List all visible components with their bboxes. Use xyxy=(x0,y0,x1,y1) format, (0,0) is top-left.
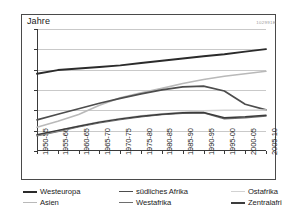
legend-item[interactable]: Zentralafrika xyxy=(231,198,282,207)
x-tick-mark xyxy=(141,151,142,154)
legend-item[interactable]: Westafrika xyxy=(119,198,231,207)
legend-label: Zentralafrika xyxy=(248,198,282,207)
chart-legend: Westeuropasüdliches AfrikaOstafrikaAsien… xyxy=(23,186,275,208)
legend-label: Ostafrika xyxy=(248,187,278,196)
x-tick-mark xyxy=(37,151,38,154)
x-tick-mark xyxy=(204,151,205,154)
x-tick-mark xyxy=(58,151,59,154)
series-lines xyxy=(37,29,266,151)
y-axis-unit-label: Jahre xyxy=(27,16,50,26)
chart-screenshot: Jahre 102991E 30405060708090 1950-551955… xyxy=(0,0,282,220)
plot-area: 30405060708090 1950-551955-601960-651965… xyxy=(37,29,266,151)
legend-color-swatch xyxy=(23,191,37,193)
x-tick-mark xyxy=(245,151,246,154)
x-tick-mark xyxy=(79,151,80,154)
legend-color-swatch xyxy=(119,202,133,203)
x-tick-mark xyxy=(266,151,267,154)
x-tick-mark xyxy=(99,151,100,154)
watermark-label: 102991E xyxy=(256,20,276,25)
x-tick-label: 2005-10 xyxy=(270,128,279,155)
x-tick-mark xyxy=(120,151,121,154)
legend-color-swatch xyxy=(23,202,37,203)
legend-item[interactable]: Westeuropa xyxy=(23,187,119,196)
legend-label: Westafrika xyxy=(136,198,171,207)
legend-label: Asien xyxy=(40,198,59,207)
legend-label: südliches Afrika xyxy=(136,187,188,196)
legend-color-swatch xyxy=(231,202,245,204)
legend-item[interactable]: Asien xyxy=(23,198,119,207)
legend-item[interactable]: Ostafrika xyxy=(231,187,282,196)
legend-item[interactable]: südliches Afrika xyxy=(119,187,231,196)
legend-label: Westeuropa xyxy=(40,187,80,196)
series-line xyxy=(37,113,266,135)
legend-color-swatch xyxy=(119,191,133,192)
series-line xyxy=(37,110,266,135)
series-line xyxy=(37,49,266,74)
x-tick-mark xyxy=(162,151,163,154)
x-tick-mark xyxy=(224,151,225,154)
legend-color-swatch xyxy=(231,191,245,192)
x-tick-mark xyxy=(183,151,184,154)
